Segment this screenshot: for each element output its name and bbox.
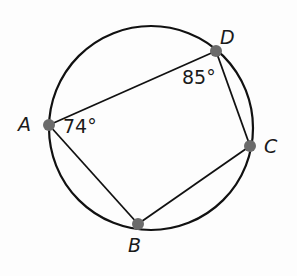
label-d: D	[220, 28, 235, 47]
inscribed-quadrilateral-diagram: A B C D 74° 85°	[0, 0, 297, 276]
point-a	[43, 119, 55, 131]
label-c: C	[264, 137, 277, 156]
diagram-canvas	[0, 0, 297, 276]
angle-d-measure: 85°	[182, 68, 216, 87]
segment-dc	[216, 51, 250, 146]
angle-a-measure: 74°	[63, 117, 97, 136]
point-b	[132, 218, 144, 230]
segment-ba	[49, 125, 138, 224]
point-c	[244, 140, 256, 152]
label-a: A	[18, 115, 31, 134]
segment-cb	[138, 146, 250, 224]
label-b: B	[128, 236, 141, 255]
